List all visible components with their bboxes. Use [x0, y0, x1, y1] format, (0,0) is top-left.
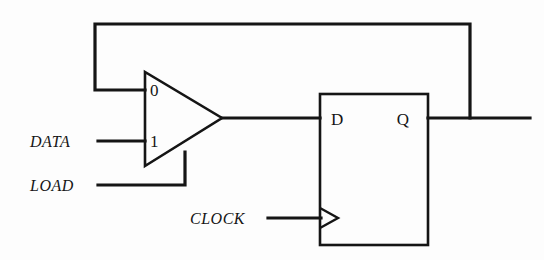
mux-input-1-label: 1 [150, 132, 159, 151]
feedback-wire [95, 24, 470, 118]
clock-signal-label: CLOCK [190, 210, 246, 227]
load-select-wire [98, 152, 185, 185]
diagram-canvas: 0 1 D Q DATA LOAD CLOCK [0, 0, 544, 260]
flipflop-d-label: D [331, 110, 343, 129]
mux-input-0-label: 0 [150, 81, 159, 100]
circuit-schematic: 0 1 D Q DATA LOAD CLOCK [0, 0, 544, 260]
clock-notch-icon [320, 208, 338, 228]
load-signal-label: LOAD [29, 177, 74, 194]
flipflop-q-label: Q [397, 110, 409, 129]
data-signal-label: DATA [29, 133, 70, 150]
